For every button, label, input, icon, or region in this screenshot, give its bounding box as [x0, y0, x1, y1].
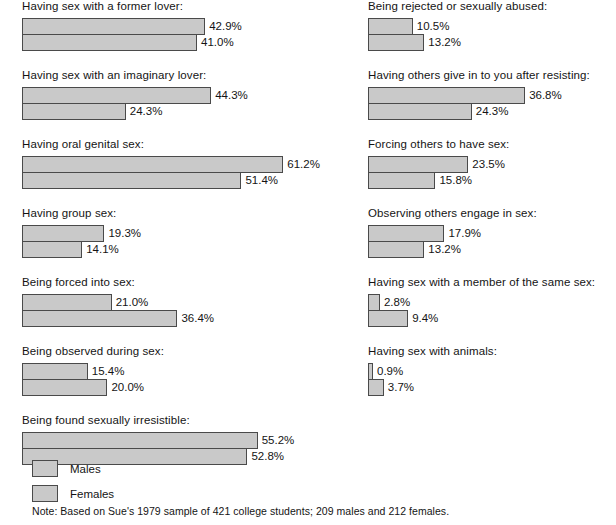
- bar-females: [22, 310, 177, 327]
- bar-row: 19.3%: [22, 225, 342, 242]
- bar-group-label: Observing others engage in sex:: [368, 207, 608, 220]
- bar-males: [22, 87, 211, 104]
- legend-label: Males: [70, 463, 101, 475]
- bar-value-label: 17.9%: [444, 225, 481, 242]
- bar-males: [368, 18, 413, 35]
- bar-row: 3.7%: [368, 379, 608, 396]
- bar-group-label: Being rejected or sexually abused:: [368, 0, 608, 13]
- bar-group: Having oral genital sex:61.2%51.4%: [22, 138, 342, 189]
- bar-males: [22, 432, 258, 449]
- bar-value-label: 9.4%: [408, 310, 438, 327]
- bar-row: 13.2%: [368, 34, 608, 51]
- bar-row: 13.2%: [368, 241, 608, 258]
- bar-row: 36.4%: [22, 310, 342, 327]
- bar-females: [368, 34, 424, 51]
- bar-females: [22, 34, 197, 51]
- bar-row: 17.9%: [368, 225, 608, 242]
- bar-group-bars: 17.9%13.2%: [368, 225, 608, 258]
- bar-value-label: 10.5%: [413, 18, 450, 35]
- bar-females: [368, 310, 408, 327]
- bar-row: 20.0%: [22, 379, 342, 396]
- bar-value-label: 42.9%: [205, 18, 242, 35]
- bar-females: [22, 103, 126, 120]
- bar-males: [22, 156, 283, 173]
- bar-group-label: Being found sexually irresistible:: [22, 414, 342, 427]
- bar-value-label: 24.3%: [126, 103, 163, 120]
- bar-males: [368, 294, 380, 311]
- bar-males: [22, 363, 88, 380]
- bar-group-label: Being forced into sex:: [22, 276, 342, 289]
- bar-value-label: 44.3%: [211, 87, 248, 104]
- bar-males: [368, 156, 468, 173]
- bar-row: 55.2%: [22, 432, 342, 449]
- bar-row: 24.3%: [368, 103, 608, 120]
- bar-females: [368, 103, 472, 120]
- bar-group-bars: 0.9%3.7%: [368, 363, 608, 396]
- bar-group-bars: 23.5%15.8%: [368, 156, 608, 189]
- bar-group-label: Having sex with a former lover:: [22, 0, 342, 13]
- bar-group: Having sex with animals:0.9%3.7%: [368, 345, 608, 396]
- bar-row: 24.3%: [22, 103, 342, 120]
- bar-females: [22, 379, 107, 396]
- bar-group-bars: 10.5%13.2%: [368, 18, 608, 51]
- bar-group-label: Having group sex:: [22, 207, 342, 220]
- bar-value-label: 52.8%: [247, 448, 284, 465]
- bar-group: Being forced into sex:21.0%36.4%: [22, 276, 342, 327]
- chart-root: Having sex with a former lover:42.9%41.0…: [0, 0, 616, 525]
- bar-value-label: 24.3%: [472, 103, 509, 120]
- legend-item: Males: [32, 458, 114, 479]
- bar-value-label: 36.8%: [525, 87, 562, 104]
- bar-males: [22, 18, 205, 35]
- bar-row: 9.4%: [368, 310, 608, 327]
- bar-value-label: 19.3%: [104, 225, 141, 242]
- bar-group: Forcing others to have sex:23.5%15.8%: [368, 138, 608, 189]
- bar-group-label: Having sex with animals:: [368, 345, 608, 358]
- chart-column-left: Having sex with a former lover:42.9%41.0…: [22, 0, 342, 483]
- bar-value-label: 14.1%: [82, 241, 119, 258]
- bar-row: 14.1%: [22, 241, 342, 258]
- bar-value-label: 61.2%: [283, 156, 320, 173]
- bar-value-label: 0.9%: [373, 363, 403, 380]
- bar-group-bars: 19.3%14.1%: [22, 225, 342, 258]
- bar-group: Having others give in to you after resis…: [368, 69, 608, 120]
- bar-group-bars: 44.3%24.3%: [22, 87, 342, 120]
- bar-males: [368, 225, 444, 242]
- bar-row: 15.8%: [368, 172, 608, 189]
- bar-value-label: 36.4%: [177, 310, 214, 327]
- bar-males: [368, 87, 525, 104]
- bar-value-label: 23.5%: [468, 156, 505, 173]
- bar-row: 41.0%: [22, 34, 342, 51]
- bar-row: 61.2%: [22, 156, 342, 173]
- chart-note: Note: Based on Sue's 1979 sample of 421 …: [32, 505, 449, 517]
- bar-group: Having sex with a member of the same sex…: [368, 276, 608, 327]
- bar-males: [22, 294, 112, 311]
- bar-value-label: 13.2%: [424, 241, 461, 258]
- legend-item: Females: [32, 483, 114, 504]
- bar-females: [368, 241, 424, 258]
- bar-group-bars: 15.4%20.0%: [22, 363, 342, 396]
- bar-group-label: Being observed during sex:: [22, 345, 342, 358]
- bar-group-bars: 61.2%51.4%: [22, 156, 342, 189]
- bar-males: [22, 225, 104, 242]
- chart-column-right: Being rejected or sexually abused:10.5%1…: [368, 0, 608, 414]
- bar-group: Observing others engage in sex:17.9%13.2…: [368, 207, 608, 258]
- bar-row: 44.3%: [22, 87, 342, 104]
- bar-group: Having sex with an imaginary lover:44.3%…: [22, 69, 342, 120]
- bar-value-label: 20.0%: [107, 379, 144, 396]
- bar-females: [22, 241, 82, 258]
- bar-row: 51.4%: [22, 172, 342, 189]
- bar-group-bars: 36.8%24.3%: [368, 87, 608, 120]
- bar-group: Having group sex:19.3%14.1%: [22, 207, 342, 258]
- bar-row: 0.9%: [368, 363, 608, 380]
- bar-group-bars: 42.9%41.0%: [22, 18, 342, 51]
- bar-value-label: 51.4%: [241, 172, 278, 189]
- bar-group: Having sex with a former lover:42.9%41.0…: [22, 0, 342, 51]
- bar-row: 10.5%: [368, 18, 608, 35]
- bar-row: 23.5%: [368, 156, 608, 173]
- legend-swatch: [32, 485, 58, 502]
- bar-group: Being rejected or sexually abused:10.5%1…: [368, 0, 608, 51]
- bar-value-label: 2.8%: [380, 294, 410, 311]
- bar-value-label: 13.2%: [424, 34, 461, 51]
- chart-legend: MalesFemales: [32, 458, 114, 508]
- bar-females: [368, 172, 435, 189]
